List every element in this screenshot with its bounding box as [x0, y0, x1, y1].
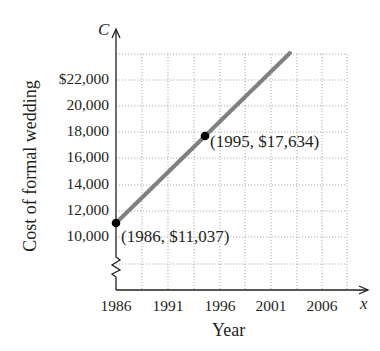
- data-point-1986: [112, 219, 121, 228]
- x-axis: [116, 286, 368, 294]
- point-label-1986: (1986, $11,037): [121, 227, 229, 247]
- x-tick-2001: 2001: [256, 297, 287, 315]
- y-axis: [112, 29, 120, 290]
- x-axis-label: Year: [212, 320, 245, 341]
- x-axis-variable: x: [360, 294, 368, 314]
- x-tick-1996: 1996: [205, 297, 236, 315]
- x-tick-2006: 2006: [307, 297, 338, 315]
- point-label-1995: (1995, $17,634): [210, 132, 319, 152]
- y-axis-label: Cost of formal wedding: [20, 80, 41, 251]
- data-point-1995: [201, 132, 210, 141]
- grid: [116, 54, 347, 290]
- x-tick-1986: 1986: [101, 297, 132, 315]
- y-axis-variable: C: [98, 20, 109, 40]
- x-tick-1991: 1991: [153, 297, 184, 315]
